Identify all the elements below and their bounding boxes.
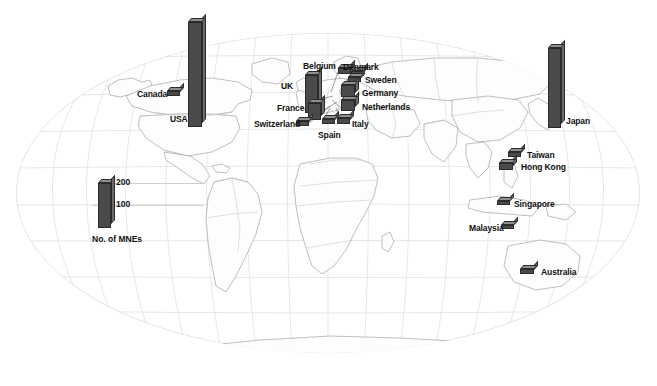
bar-front-face: [520, 269, 534, 274]
bar-front-face: [497, 201, 510, 205]
bar-side-face: [561, 40, 565, 124]
country-label: Canada: [137, 89, 167, 99]
legend-bar-side: [111, 175, 115, 224]
legend-bar-front: [98, 183, 111, 228]
country-label: Singapore: [514, 199, 555, 209]
country-label: Italy: [352, 119, 369, 129]
bar-front-face: [337, 118, 350, 124]
bar-front-face: [167, 91, 180, 96]
bar-front-face: [322, 119, 335, 124]
country-label: Germany: [362, 88, 398, 98]
country-bar[interactable]: [499, 163, 513, 170]
legend: 200 100 No. of MNEs: [92, 172, 212, 242]
bar-side-face: [202, 14, 206, 123]
country-label: Netherlands: [362, 102, 410, 112]
country-label: Australia: [541, 267, 576, 277]
legend-tick-label-200: 200: [116, 177, 130, 187]
bar-front-face: [499, 163, 513, 170]
country-label: France: [277, 103, 304, 113]
country-bar[interactable]: [497, 201, 510, 205]
country-bar[interactable]: [167, 91, 180, 96]
country-label: Malaysia: [469, 223, 504, 233]
country-label: Japan: [566, 116, 590, 126]
country-label: Sweden: [365, 75, 397, 85]
country-bar[interactable]: [322, 119, 335, 124]
bar-front-face: [548, 48, 561, 128]
legend-caption: No. of MNEs: [92, 234, 142, 244]
country-bar[interactable]: [548, 48, 561, 128]
country-label: Taiwan: [527, 150, 555, 160]
bar-front-face: [188, 22, 202, 127]
country-label: UK: [281, 81, 293, 91]
country-label: Hong Kong: [521, 162, 566, 172]
bar-side-face: [355, 92, 359, 107]
country-label: Belgium: [303, 61, 336, 71]
country-bar[interactable]: [337, 118, 350, 124]
country-label: USA: [170, 114, 188, 124]
legend-scale-bar: [98, 183, 111, 228]
country-label: Spain: [318, 130, 341, 140]
country-bar[interactable]: [188, 22, 202, 127]
world-map-figure: USAJapanCanadaUKFranceBelgiumDenmarkSwed…: [0, 0, 657, 386]
country-bar[interactable]: [520, 269, 534, 274]
bar-top-face: [497, 197, 514, 201]
country-label: Switzerland: [254, 119, 300, 129]
country-label: Denmark: [343, 62, 379, 72]
legend-tick-label-100: 100: [116, 199, 130, 209]
